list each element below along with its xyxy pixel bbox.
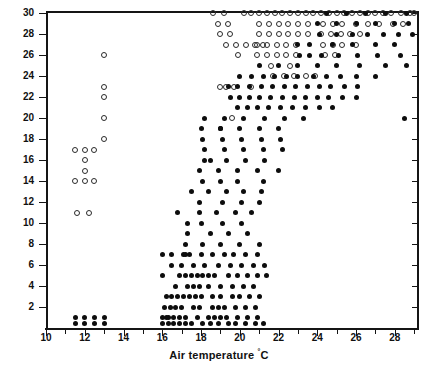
data-point-filled-circle (270, 84, 275, 89)
data-point-open-circle (91, 147, 97, 153)
data-point-filled-circle (212, 273, 217, 278)
data-point-filled-circle (187, 294, 192, 299)
data-point-filled-circle (164, 294, 169, 299)
data-point-filled-circle (166, 321, 171, 326)
data-point-filled-circle (169, 263, 174, 268)
data-point-filled-circle (398, 53, 403, 58)
data-point-filled-circle (276, 168, 281, 173)
y-tick-12 (39, 202, 46, 203)
data-point-filled-circle (261, 74, 266, 79)
data-point-open-circle (101, 84, 107, 90)
x-tick-minor-11 (65, 329, 66, 334)
data-point-filled-circle (261, 147, 266, 152)
data-point-open-circle (256, 21, 262, 27)
data-point-filled-circle (206, 284, 211, 289)
data-point-open-circle (357, 31, 363, 37)
data-point-filled-circle (243, 158, 248, 163)
data-point-open-circle (101, 115, 107, 121)
data-point-filled-circle (173, 284, 178, 289)
data-point-filled-circle (392, 42, 397, 47)
data-point-filled-circle (195, 273, 200, 278)
data-point-open-circle (339, 21, 345, 27)
data-point-filled-circle (197, 284, 202, 289)
data-point-open-circle (74, 210, 80, 216)
data-point-filled-circle (208, 321, 213, 326)
data-point-open-circle (229, 115, 235, 121)
data-point-filled-circle (237, 126, 242, 131)
data-point-open-circle (283, 52, 289, 58)
data-point-filled-circle (402, 116, 407, 121)
data-point-open-circle (101, 94, 107, 100)
data-point-filled-circle (200, 242, 205, 247)
data-point-open-circle (320, 21, 326, 27)
data-point-filled-circle (235, 273, 240, 278)
data-point-filled-circle (257, 294, 262, 299)
data-point-filled-circle (315, 95, 320, 100)
data-point-filled-circle (235, 168, 240, 173)
data-point-open-circle (274, 52, 280, 58)
data-point-filled-circle (241, 189, 246, 194)
y-tick-label-16: 16 (8, 155, 34, 165)
data-point-filled-circle (354, 95, 359, 100)
data-point-filled-circle (293, 84, 298, 89)
data-point-filled-circle (235, 105, 240, 110)
data-point-filled-circle (202, 147, 207, 152)
data-point-filled-circle (406, 21, 411, 26)
data-point-filled-circle (336, 53, 341, 58)
data-point-filled-circle (197, 200, 202, 205)
data-point-filled-circle (189, 321, 194, 326)
data-point-open-circle (305, 31, 311, 37)
data-point-filled-circle (315, 21, 320, 26)
data-point-filled-circle (233, 321, 238, 326)
data-point-filled-circle (220, 200, 225, 205)
data-point-filled-circle (226, 273, 231, 278)
data-point-filled-circle (247, 294, 252, 299)
x-tick-label-26: 26 (350, 333, 361, 343)
data-point-filled-circle (342, 84, 347, 89)
data-point-filled-circle (237, 242, 242, 247)
x-tick-label-16: 16 (157, 333, 168, 343)
data-point-filled-circle (373, 21, 378, 26)
data-point-filled-circle (276, 126, 281, 131)
data-point-filled-circle (177, 273, 182, 278)
data-point-filled-circle (264, 273, 269, 278)
data-point-filled-circle (183, 315, 188, 320)
x-tick-label-12: 12 (79, 333, 90, 343)
data-point-filled-circle (226, 84, 231, 89)
data-point-open-circle (328, 31, 334, 37)
data-point-open-circle (82, 168, 88, 174)
data-point-filled-circle (383, 11, 388, 16)
y-tick-6 (39, 265, 46, 266)
data-point-filled-circle (305, 84, 310, 89)
data-point-filled-circle (295, 42, 300, 47)
data-point-filled-circle (282, 84, 287, 89)
data-point-open-circle (252, 42, 258, 48)
data-point-filled-circle (295, 63, 300, 68)
data-point-filled-circle (208, 158, 213, 163)
data-point-filled-circle (200, 137, 205, 142)
y-tick-16 (39, 160, 46, 161)
data-point-open-circle (210, 10, 216, 16)
data-point-filled-circle (233, 305, 238, 310)
data-point-filled-circle (268, 95, 273, 100)
data-point-filled-circle (92, 315, 97, 320)
data-point-filled-circle (224, 158, 229, 163)
y-tick-24 (39, 76, 46, 77)
data-point-filled-circle (175, 294, 180, 299)
data-point-filled-circle (168, 305, 173, 310)
data-point-filled-circle (259, 84, 264, 89)
data-point-filled-circle (102, 321, 107, 326)
data-point-filled-circle (280, 95, 285, 100)
y-tick-8 (39, 244, 46, 245)
data-point-filled-circle (284, 74, 289, 79)
data-point-filled-circle (200, 321, 205, 326)
data-point-filled-circle (257, 200, 262, 205)
data-point-filled-circle (160, 321, 165, 326)
data-point-open-circle (279, 10, 285, 16)
data-point-open-circle (266, 21, 272, 27)
data-point-filled-circle (334, 21, 339, 26)
data-point-filled-circle (334, 32, 339, 37)
data-point-filled-circle (239, 137, 244, 142)
data-point-open-circle (243, 42, 249, 48)
data-point-filled-circle (195, 315, 200, 320)
